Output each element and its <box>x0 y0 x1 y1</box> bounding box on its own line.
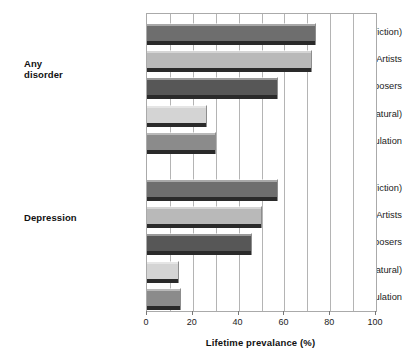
plot-area <box>146 13 377 312</box>
bar-highlight <box>147 234 251 236</box>
bar-highlight <box>147 262 178 264</box>
bar <box>147 50 312 72</box>
bar-highlight <box>147 24 315 26</box>
bar <box>147 288 181 310</box>
tick-label: 0 <box>131 317 161 327</box>
bar-highlight <box>147 207 261 209</box>
tick-mark <box>329 311 330 315</box>
bar-shadow <box>147 68 311 72</box>
bar <box>147 105 207 127</box>
x-axis-title: Lifetime prevalance (%) <box>146 337 375 348</box>
gridline <box>330 14 331 311</box>
tick-mark <box>146 311 147 315</box>
bar <box>147 206 262 228</box>
bar-highlight <box>147 78 277 80</box>
bar-shadow <box>147 197 277 201</box>
bar-shadow <box>147 95 277 99</box>
bar-shadow <box>147 251 251 255</box>
bar-shadow <box>147 306 180 310</box>
tick-mark <box>375 311 376 315</box>
bar-shadow <box>147 224 261 228</box>
tick-mark <box>238 311 239 315</box>
tick-label: 80 <box>314 317 344 327</box>
bar <box>147 23 316 45</box>
tick-mark <box>192 311 193 315</box>
tick-mark <box>283 311 284 315</box>
bar-highlight <box>147 289 180 291</box>
tick-label: 20 <box>177 317 207 327</box>
bar-chart: Any disorder Depression Writers (fiction… <box>0 0 406 362</box>
bar-highlight <box>147 51 311 53</box>
bar-highlight <box>147 180 277 182</box>
tick-label: 60 <box>268 317 298 327</box>
tick-label: 100 <box>360 317 390 327</box>
bar-shadow <box>147 123 206 127</box>
bar <box>147 132 216 154</box>
bar-shadow <box>147 41 315 45</box>
group-title-depression: Depression <box>24 212 77 223</box>
group-title-any-disorder: Any disorder <box>24 58 63 80</box>
bar-highlight <box>147 106 206 108</box>
bar <box>147 77 278 99</box>
bar <box>147 233 252 255</box>
tick-label: 40 <box>223 317 253 327</box>
bar-shadow <box>147 279 178 283</box>
bar <box>147 261 179 283</box>
bar-shadow <box>147 150 215 154</box>
bar-highlight <box>147 133 215 135</box>
gridline <box>353 14 354 311</box>
bar <box>147 179 278 201</box>
